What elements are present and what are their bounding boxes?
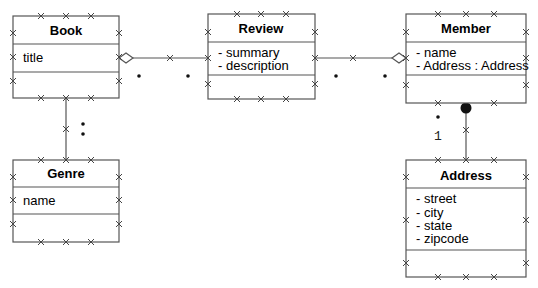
class-member[interactable]: Member - name - Address : Address [403,11,529,106]
multiplicity-dot [81,132,85,136]
multiplicity-label: 1 [434,129,442,144]
multiplicity-dot [334,74,338,78]
multiplicity-dot [81,122,85,126]
multiplicity-dot [436,115,440,119]
class-attribute: - street [416,191,457,206]
class-attribute: name [23,193,56,208]
class-name: Address [440,168,492,183]
association-review-member[interactable] [315,53,406,78]
association-book-review[interactable] [119,53,208,78]
class-genre[interactable]: Genre name [10,157,122,245]
class-name: Review [239,21,285,36]
multiplicity-dot [137,74,141,78]
association-book-genre[interactable] [63,98,85,160]
aggregation-diamond-icon [392,53,406,63]
multiplicity-dot [383,74,387,78]
class-book[interactable]: Book title [10,13,122,101]
class-name: Book [50,23,83,38]
composition-member-address[interactable]: 1 [434,103,472,161]
class-attribute: title [23,50,43,65]
class-name: Genre [47,166,85,181]
composition-filled-circle-icon [461,103,472,114]
class-name: Member [441,21,491,36]
multiplicity-dot [186,74,190,78]
class-attribute: - zipcode [416,231,469,246]
class-attribute: - description [218,58,289,73]
class-address[interactable]: Address - street - city - state - zipcod… [403,157,529,280]
class-attribute: - Address : Address [416,58,529,73]
class-review[interactable]: Review - summary - description [205,11,318,102]
uml-diagram-canvas: 1 Book title Review - summary - descript… [0,0,538,288]
